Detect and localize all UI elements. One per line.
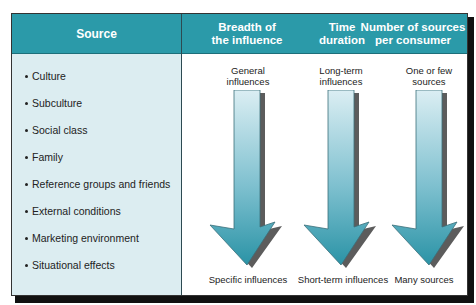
source-item: Culture [25, 70, 66, 82]
source-item: Situational effects [25, 259, 115, 271]
source-label: Family [32, 151, 63, 163]
source-label: Culture [32, 70, 66, 82]
time-top-line1: Long-term [319, 65, 362, 76]
source-label: Reference groups and friends [32, 178, 170, 190]
time-bottom-label: Short-term influences [288, 274, 398, 285]
breadth-bottom-label: Specific influences [198, 274, 298, 285]
header-time-line1: Time [329, 21, 356, 33]
source-item: Family [25, 151, 63, 163]
source-column: Culture Subculture Social class Family R… [12, 54, 181, 295]
number-top-label: One or fewsources [399, 65, 459, 87]
influence-table: Source Breadth ofthe influence Timedurat… [11, 13, 468, 296]
down-arrow-icon [387, 90, 467, 270]
breadth-top-line1: General [231, 65, 265, 76]
time-top-line2: influences [320, 76, 363, 87]
header-number-line1: Number of sources [361, 21, 466, 33]
header-source: Source [12, 14, 181, 54]
header-breadth-line1: Breadth of [218, 21, 276, 33]
number-top-line2: sources [412, 76, 445, 87]
table-header: Source Breadth ofthe influence Timedurat… [12, 14, 467, 54]
source-item: Marketing environment [25, 232, 139, 244]
down-arrow-icon [299, 90, 379, 270]
breadth-top-line2: influences [227, 76, 270, 87]
column-divider [181, 14, 182, 295]
source-label: Subculture [32, 97, 82, 109]
number-top-line1: One or few [406, 65, 452, 76]
source-item: Reference groups and friends [25, 178, 170, 190]
breadth-top-label: Generalinfluences [218, 65, 278, 87]
source-label: Marketing environment [32, 232, 139, 244]
source-label: Situational effects [32, 259, 115, 271]
bullet-icon [25, 210, 28, 213]
bullet-icon [25, 156, 28, 159]
time-top-label: Long-terminfluences [311, 65, 371, 87]
bullet-icon [25, 237, 28, 240]
source-item: Subculture [25, 97, 82, 109]
header-number: Number of sourcesper consumer [357, 14, 469, 54]
source-label: Social class [32, 124, 87, 136]
header-breadth-line2: the influence [212, 34, 283, 46]
bullet-icon [25, 102, 28, 105]
bullet-icon [25, 264, 28, 267]
header-number-line2: per consumer [375, 34, 451, 46]
source-label: External conditions [32, 205, 121, 217]
source-item: External conditions [25, 205, 121, 217]
down-arrow-icon [205, 90, 285, 270]
bullet-icon [25, 129, 28, 132]
header-breadth: Breadth ofthe influence [182, 14, 312, 54]
source-item: Social class [25, 124, 87, 136]
bullet-icon [25, 183, 28, 186]
number-bottom-label: Many sources [384, 274, 464, 285]
bullet-icon [25, 75, 28, 78]
